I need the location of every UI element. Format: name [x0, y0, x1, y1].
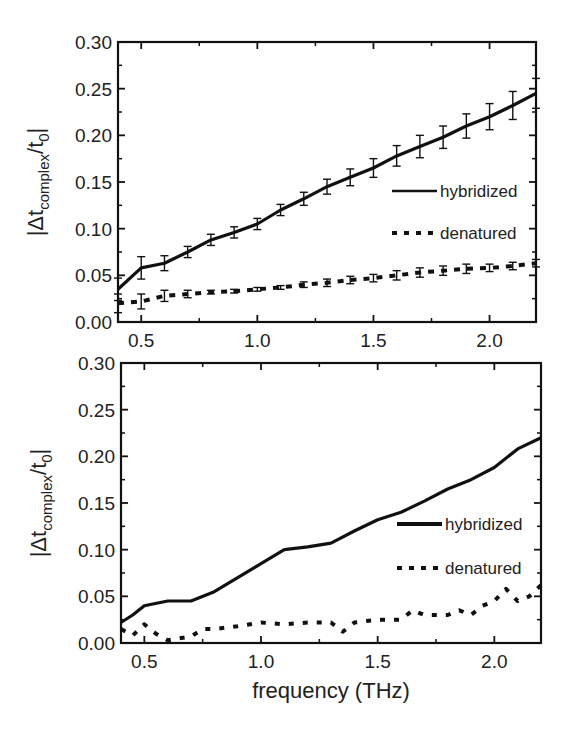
- x-tick-label: 2.0: [481, 651, 507, 672]
- x-axis-title: frequency (THz): [252, 678, 410, 703]
- y-tick-label: 0.25: [78, 400, 115, 421]
- y-tick-label: 0.20: [78, 446, 115, 467]
- series-line-denatured: [121, 585, 541, 640]
- x-tick-label: 1.0: [244, 330, 270, 351]
- legend-label-denatured: denatured: [445, 559, 522, 578]
- y-tick-label: 0.05: [75, 265, 112, 286]
- y-tick-label: 0.30: [78, 353, 115, 374]
- y-axis-title: |Δtcomplex/t0|: [26, 449, 55, 558]
- y-tick-label: 0.00: [78, 633, 115, 654]
- y-tick-label: 0.25: [75, 79, 112, 100]
- y-tick-label: 0.00: [75, 312, 112, 333]
- y-tick-label: 0.30: [75, 32, 112, 53]
- legend-label-denatured: denatured: [440, 224, 517, 243]
- legend-label-hybridized: hybridized: [445, 515, 523, 534]
- y-tick-label: 0.15: [75, 172, 112, 193]
- y-tick-label: 0.10: [75, 219, 112, 240]
- panel-bottom: 0.000.050.100.150.200.250.300.51.01.52.0…: [26, 353, 541, 703]
- chart-figure: 0.000.050.100.150.200.250.300.51.01.52.0…: [0, 0, 567, 736]
- x-tick-label: 1.0: [248, 651, 274, 672]
- x-tick-label: 1.5: [360, 330, 386, 351]
- panel-top: 0.000.050.100.150.200.250.300.51.01.52.0…: [23, 32, 540, 351]
- x-tick-label: 2.0: [476, 330, 502, 351]
- x-tick-label: 0.5: [128, 330, 154, 351]
- x-tick-label: 0.5: [131, 651, 157, 672]
- legend-label-hybridized: hybridized: [440, 182, 518, 201]
- y-axis-title: |Δtcomplex/t0|: [23, 128, 52, 237]
- y-tick-label: 0.20: [75, 125, 112, 146]
- y-tick-label: 0.10: [78, 540, 115, 561]
- x-tick-label: 1.5: [364, 651, 390, 672]
- y-tick-label: 0.15: [78, 493, 115, 514]
- y-tick-label: 0.05: [78, 586, 115, 607]
